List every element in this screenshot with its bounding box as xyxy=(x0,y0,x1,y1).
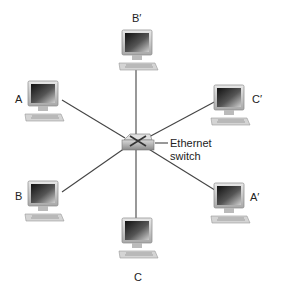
network-diagram xyxy=(0,0,283,293)
host-label-c-prime: C′ xyxy=(252,94,262,105)
host-label-a-prime: A′ xyxy=(250,192,259,203)
host-a-prime-computer-icon xyxy=(211,183,250,223)
switch-label: Ethernet switch xyxy=(170,137,212,163)
host-label-c: C xyxy=(134,272,142,283)
host-label-b-prime: B′ xyxy=(132,13,141,24)
host-b-computer-icon xyxy=(25,181,64,221)
link-b xyxy=(62,148,125,192)
ethernet-switch-icon xyxy=(122,134,154,150)
host-c-computer-icon xyxy=(119,218,158,258)
host-c-prime-computer-icon xyxy=(211,85,250,125)
host-label-a: A xyxy=(15,94,22,105)
host-label-b: B xyxy=(15,191,22,202)
switch-label-line2: switch xyxy=(170,150,212,163)
link-a xyxy=(62,100,125,138)
switch-label-line1: Ethernet xyxy=(170,137,212,150)
host-b-prime-computer-icon xyxy=(119,30,158,70)
link-c-prime xyxy=(147,100,218,138)
host-a-computer-icon xyxy=(25,81,64,121)
